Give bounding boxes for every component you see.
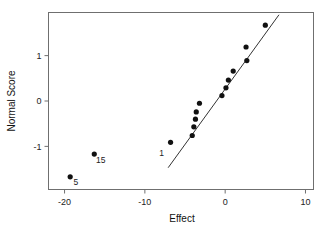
data-point [68,174,73,179]
x-tick-label: 10 [300,197,310,207]
y-axis-title: Normal Score [6,70,17,132]
data-point [263,23,268,28]
data-point [243,44,248,49]
data-point [197,101,202,106]
data-point [194,109,199,114]
data-point [219,93,224,98]
x-tick-label: 0 [223,197,228,207]
data-point [193,117,198,122]
chart-background [0,0,334,242]
plot-canvas: -101 -20-10010 5151 Effect Normal Score [0,0,334,242]
normal-probability-plot: -101 -20-10010 5151 Effect Normal Score [0,0,334,242]
x-tick-label: -20 [58,197,71,207]
data-point [223,85,228,90]
x-tick-label: -10 [138,197,151,207]
y-tick-label: -1 [33,142,41,152]
data-point [226,78,231,83]
x-axis-title: Effect [169,213,195,224]
point-label: 15 [96,155,106,165]
y-tick-label: 1 [36,51,41,61]
point-label: 5 [73,177,78,187]
data-point [168,140,173,145]
data-point [190,133,195,138]
data-point [191,124,196,129]
data-point [244,58,249,63]
data-point [231,68,236,73]
point-label: 1 [159,148,164,158]
y-tick-label: 0 [36,96,41,106]
